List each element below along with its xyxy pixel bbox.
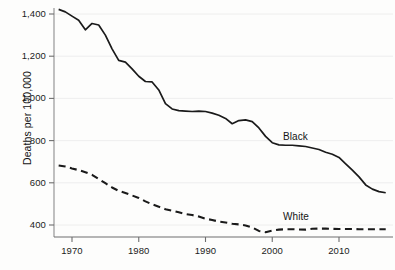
chart-figure: 4006008001,0001,2001,400 197019801990200… (0, 0, 395, 270)
y-tick-label: 400 (30, 219, 46, 230)
x-tick-label: 2000 (242, 245, 302, 256)
tick-marks (49, 14, 339, 242)
data-series-group (59, 9, 386, 232)
x-tick-label: 1980 (109, 245, 169, 256)
x-tick-label: 2010 (309, 245, 369, 256)
axis-lines (54, 8, 393, 237)
x-tick-label: 1970 (42, 245, 102, 256)
y-tick-label: 1,400 (22, 8, 46, 19)
series-label-white: White (283, 211, 309, 222)
chart-plot-area (0, 0, 395, 270)
series-line-black (59, 9, 386, 192)
series-label-black: Black (283, 131, 308, 142)
gridlines (54, 14, 393, 225)
y-axis-title: Deaths per 100,000 (21, 43, 33, 193)
x-tick-label: 1990 (176, 245, 236, 256)
series-line-white (59, 166, 386, 233)
